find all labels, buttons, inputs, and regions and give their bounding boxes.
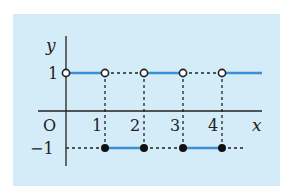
x-axis-label: x <box>252 115 262 135</box>
origin-label: O <box>43 116 56 135</box>
x-tick-4: 4 <box>208 116 218 135</box>
y-axis-label: y <box>45 35 56 55</box>
x-tick-2: 2 <box>130 116 140 135</box>
step-function-graph: y x O 1 −1 1 2 3 4 <box>0 0 299 196</box>
x-tick-1: 1 <box>92 116 102 135</box>
y-tick-neg1: −1 <box>30 139 54 158</box>
y-tick-1: 1 <box>48 64 58 83</box>
x-tick-3: 3 <box>170 116 180 135</box>
